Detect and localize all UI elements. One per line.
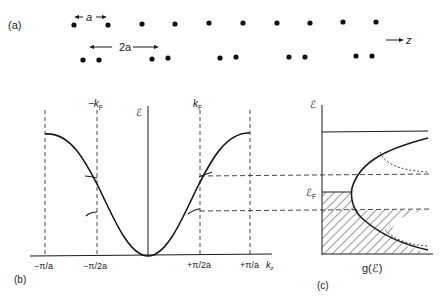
panel-c-label: (c)	[317, 280, 329, 291]
panel-a-label: (a)	[8, 19, 21, 31]
kz-axis-label: kz	[266, 260, 274, 271]
z-axis-label: z	[405, 34, 412, 46]
neg-kf-label: −kF	[88, 98, 103, 111]
uniform-atom-row	[71, 19, 378, 27]
panel-b-label: (b)	[14, 274, 26, 285]
filled-states-lower	[322, 210, 430, 254]
panel-a: (a) a 2a	[8, 11, 412, 63]
gap-upper-left	[85, 176, 97, 178]
dos-axis-label: g(ℰ)	[362, 262, 382, 274]
tick-neg-pi-2a: −π/2a	[83, 261, 107, 271]
gap-lower-right	[188, 209, 200, 214]
spacing-2a-arrow: 2a	[89, 41, 159, 53]
dos-divergence-upper	[380, 152, 428, 172]
spacing-a-label: a	[86, 11, 92, 23]
dimerized-atom-row	[80, 53, 374, 62]
tick-pos-pi-2a: +π/2a	[187, 260, 211, 270]
spacing-2a-label: 2a	[119, 41, 132, 53]
diagram-figure: (a) a 2a	[0, 0, 447, 301]
z-axis-arrow: z	[386, 34, 412, 46]
gap-lower-left	[86, 212, 97, 216]
dos-energy-label: ℰ	[310, 99, 316, 110]
fermi-energy-label: ℰF	[306, 187, 316, 200]
panel-b: ℰ −kF kF −π/a −π/2a +π/2a +π/a kz (b)	[14, 98, 430, 285]
panel-c: ℰ ℰF g(ℰ) (c)	[306, 99, 433, 291]
pos-kf-label: kF	[193, 98, 202, 111]
spacing-a-arrow: a	[74, 11, 107, 23]
band-top-line	[322, 131, 428, 132]
tick-pos-pi-a: +π/a	[240, 260, 259, 270]
energy-axis-label: ℰ	[136, 107, 142, 118]
tick-neg-pi-a: −π/a	[34, 261, 53, 271]
